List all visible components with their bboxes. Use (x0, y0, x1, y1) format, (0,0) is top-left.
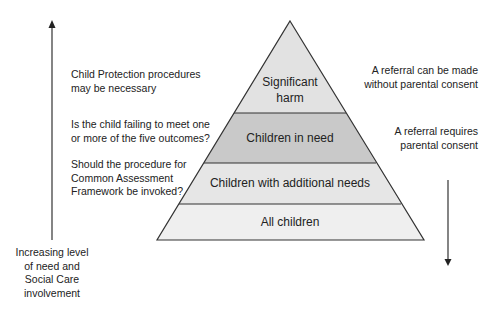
annotation-requires-consent: A referral requires parental consent (358, 125, 478, 152)
annotation-caf: Should the procedure for Common Assessme… (71, 158, 187, 199)
left-axis-label: Increasing level of need and Social Care… (8, 246, 96, 300)
annotation-line: Is the child failing to meet one (71, 118, 210, 132)
annotation-line: A referral can be made (358, 64, 478, 78)
annotation-child-protection: Child Protection procedures may be neces… (71, 68, 201, 95)
arrow-up-icon (49, 20, 56, 28)
annotation-line: Child Protection procedures (71, 68, 201, 82)
annotation-line: may be necessary (71, 82, 201, 96)
annotation-line: or more of the five outcomes? (71, 132, 210, 146)
axis-label-line: involvement (8, 287, 96, 301)
arrow-down-icon (445, 259, 452, 266)
annotation-line: Common Assessment (71, 172, 187, 186)
annotation-line: without parental consent (358, 78, 478, 92)
annotation-five-outcomes: Is the child failing to meet one or more… (71, 118, 210, 145)
layer-label-harm: harm (276, 91, 303, 105)
layer-label-children-in-need: Children in need (246, 131, 333, 145)
annotation-line: Framework be invoked? (71, 185, 187, 199)
annotation-without-consent: A referral can be made without parental … (358, 64, 478, 91)
axis-label-line: Increasing level (8, 246, 96, 260)
layer-label-all-children: All children (261, 215, 320, 229)
annotation-line: parental consent (358, 139, 478, 153)
annotation-line: A referral requires (358, 125, 478, 139)
annotation-line: Should the procedure for (71, 158, 187, 172)
axis-label-line: of need and (8, 260, 96, 274)
layer-label-additional-needs: Children with additional needs (210, 176, 370, 190)
axis-label-line: Social Care (8, 273, 96, 287)
layer-label-significant: Significant (262, 75, 318, 89)
